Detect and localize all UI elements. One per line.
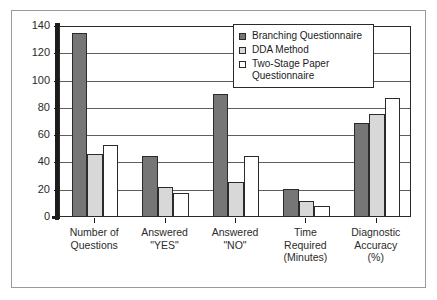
x-axis-category-label: Number ofQuestions: [59, 226, 129, 251]
bar: [158, 187, 174, 217]
x-axis-tick-mark: [235, 218, 236, 223]
y-axis-shoulder: [55, 50, 60, 52]
y-axis: 140120100806040200: [8, 0, 50, 300]
y-axis-tick-label: 100: [16, 75, 50, 86]
y-axis-shoulder: [55, 187, 60, 189]
y-axis-shoulder: [55, 78, 60, 80]
legend-label: DDA Method: [252, 44, 309, 56]
legend-item: Branching Questionnaire: [239, 30, 369, 42]
x-axis-category-line: "YES": [129, 239, 199, 252]
legend-item: Two-Stage Paper Questionnaire: [239, 58, 369, 82]
x-axis-category-line: "NO": [200, 239, 270, 252]
y-axis-shoulder: [55, 214, 60, 216]
y-axis-shoulder: [55, 105, 60, 107]
x-axis-category-line: Number of: [59, 226, 129, 239]
bar: [244, 156, 260, 217]
legend-label: Branching Questionnaire: [252, 30, 362, 42]
bar-chart: 140120100806040200 Number ofQuestionsAns…: [0, 0, 437, 300]
bar: [72, 33, 88, 217]
y-axis-tick-label: 80: [16, 102, 50, 113]
x-axis-category-label: DiagnosticAccuracy(%): [341, 226, 411, 264]
x-axis-category-label: TimeRequired(Minutes): [270, 226, 340, 264]
bar: [369, 114, 385, 217]
y-axis-tick-label: 60: [16, 129, 50, 140]
legend-item: DDA Method: [239, 44, 369, 56]
x-axis-tick-mark: [165, 218, 166, 223]
x-axis-category-line: Accuracy: [341, 239, 411, 252]
legend-swatch-icon: [239, 33, 246, 40]
bar: [385, 98, 401, 217]
legend-label: Two-Stage Paper Questionnaire: [252, 58, 369, 82]
y-axis-tick-label: 0: [16, 211, 50, 222]
legend-swatch-icon: [239, 47, 246, 54]
x-axis-tick-mark: [376, 218, 377, 223]
y-axis-tick-label: 20: [16, 184, 50, 195]
x-axis-category-line: Questions: [59, 239, 129, 252]
y-axis-tick-label: 120: [16, 47, 50, 58]
bar: [228, 182, 244, 217]
bar: [283, 189, 299, 217]
x-axis-tick-mark: [94, 218, 95, 223]
x-axis-category-line: (Minutes): [270, 251, 340, 264]
bar: [314, 206, 330, 217]
bar: [103, 145, 119, 217]
x-axis-labels: Number ofQuestionsAnswered"YES"Answered"…: [59, 226, 411, 286]
bar: [173, 193, 189, 217]
bar: [213, 94, 229, 217]
x-axis-category-line: Answered: [200, 226, 270, 239]
x-axis-category-label: Answered"NO": [200, 226, 270, 251]
chart-legend: Branching QuestionnaireDDA MethodTwo-Sta…: [233, 24, 374, 88]
bar: [299, 201, 315, 217]
y-axis-shoulder: [55, 159, 60, 161]
y-axis-tick-label: 140: [16, 20, 50, 31]
bar: [87, 154, 103, 217]
x-axis-category-line: Diagnostic: [341, 226, 411, 239]
legend-swatch-icon: [239, 61, 246, 68]
x-axis-category-label: Answered"YES": [129, 226, 199, 251]
bar: [354, 123, 370, 218]
bar: [142, 156, 158, 217]
x-axis-category-line: Time: [270, 226, 340, 239]
x-axis-category-line: Required: [270, 239, 340, 252]
x-axis-category-line: Answered: [129, 226, 199, 239]
y-axis-shoulder: [55, 132, 60, 134]
y-axis-tick-label: 40: [16, 156, 50, 167]
y-axis-shoulder: [55, 23, 60, 25]
x-axis-category-line: (%): [341, 251, 411, 264]
x-axis-tick-mark: [305, 218, 306, 223]
